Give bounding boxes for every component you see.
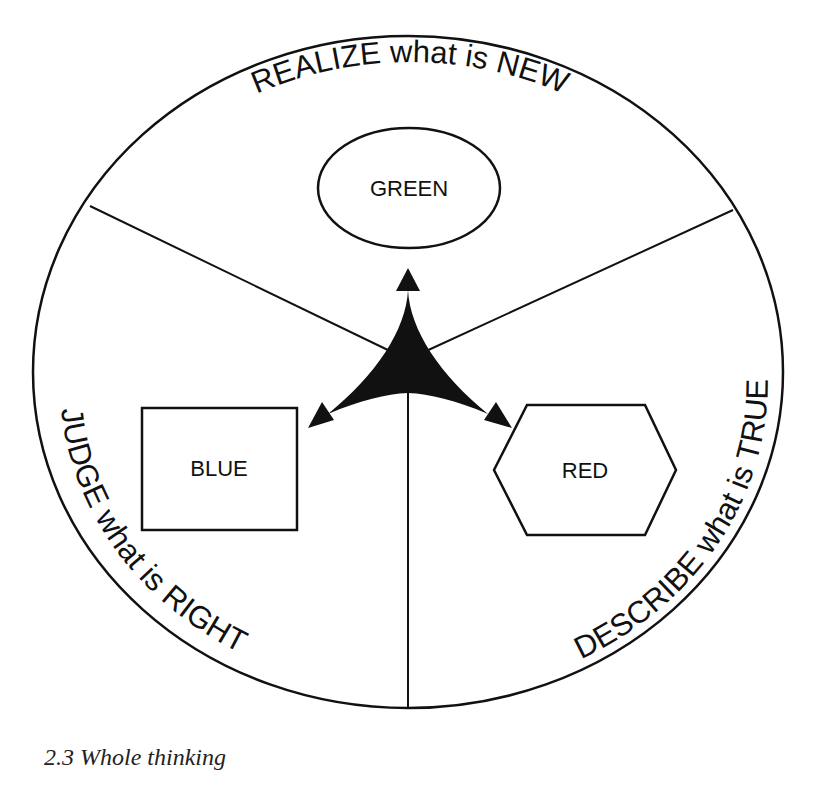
three-way-arrow-icon	[308, 268, 512, 428]
arrowhead-left	[308, 402, 334, 428]
blue-label: BLUE	[190, 456, 247, 481]
whole-thinking-diagram: REALIZE what is NEW JUDGE what is RIGHT …	[0, 0, 813, 806]
arrowhead-up	[396, 268, 420, 291]
green-label: GREEN	[370, 176, 448, 201]
red-node: RED	[494, 405, 676, 535]
arc-label-top: REALIZE what is NEW	[246, 34, 574, 101]
arrowhead-right	[484, 402, 512, 428]
figure-caption: 2.3 Whole thinking	[44, 744, 226, 771]
green-node: GREEN	[318, 128, 500, 248]
blue-node: BLUE	[142, 408, 297, 530]
red-label: RED	[562, 458, 608, 483]
